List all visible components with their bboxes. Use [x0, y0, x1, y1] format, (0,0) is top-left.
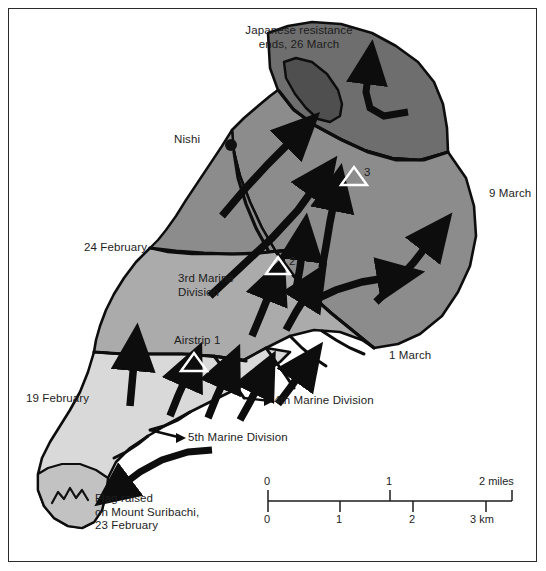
label-3rd-marine-division: 3rd Marine Division — [178, 272, 234, 299]
label-airstrip-2: 2 — [289, 255, 296, 269]
scale-miles-label: 2 miles — [479, 475, 514, 487]
label-airstrip-3: 3 — [364, 166, 371, 180]
label-1-march: 1 March — [389, 349, 431, 363]
label-24-february: 24 February — [84, 241, 147, 255]
settlement-marker-nishi — [225, 139, 237, 151]
scale-miles-tick-0: 0 — [264, 475, 270, 487]
label-flag-raised: Flag raised on Mount Suribachi, 23 Febru… — [95, 492, 199, 533]
scale-km-tick-2: 2 — [409, 513, 415, 525]
label-9-march: 9 March — [489, 187, 531, 201]
map-container: Japanese resistance ends, 26 March Nishi… — [0, 0, 546, 571]
label-19-february: 19 February — [26, 392, 89, 406]
leader-arrow-4th — [264, 396, 274, 406]
label-5th-marine-division: 5th Marine Division — [188, 431, 288, 445]
scale-km-tick-0: 0 — [264, 513, 270, 525]
label-nishi: Nishi — [174, 133, 200, 147]
scale-miles-tick-1: 1 — [386, 475, 392, 487]
label-4th-marine-division: 4th Marine Division — [274, 394, 374, 408]
scale-bar — [268, 490, 512, 512]
scale-km-label: 3 km — [470, 513, 494, 525]
leader-arrow-5th — [176, 433, 186, 443]
label-japanese-resistance: Japanese resistance ends, 26 March — [224, 24, 374, 51]
map-graphic — [0, 0, 546, 571]
arrow-suribachi — [124, 450, 212, 484]
scale-km-tick-1: 1 — [336, 513, 342, 525]
label-airstrip-1: Airstrip 1 — [174, 334, 220, 348]
